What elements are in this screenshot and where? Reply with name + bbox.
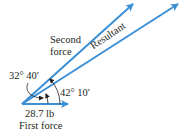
angle-arc-small bbox=[46, 94, 48, 104]
angle-label-42-10: 42° 10′ bbox=[60, 87, 90, 99]
resultant-vector bbox=[22, 4, 178, 104]
second-force-label-line2: force bbox=[50, 46, 81, 58]
angle-label-32-40: 32° 40′ bbox=[9, 70, 39, 82]
first-force-label: First force bbox=[19, 120, 62, 132]
first-force-magnitude: 28.7 lb bbox=[25, 108, 54, 120]
second-force-label: Second force bbox=[50, 34, 81, 58]
second-force-label-line1: Second bbox=[50, 34, 81, 46]
